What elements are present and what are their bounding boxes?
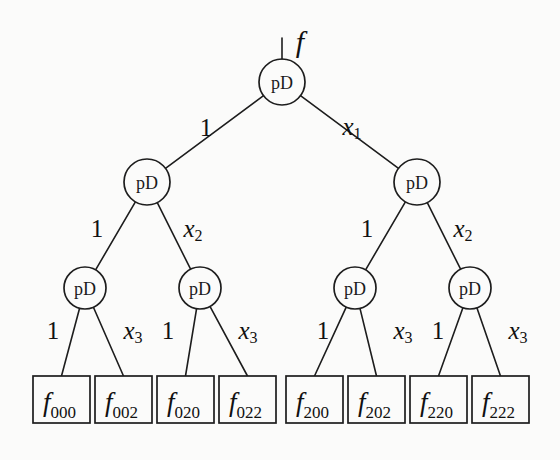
node-label: pD bbox=[406, 173, 428, 193]
edge-label-subscript: 3 bbox=[250, 329, 258, 346]
edge-label: x3 bbox=[122, 317, 142, 346]
edge-label: x2 bbox=[452, 215, 472, 244]
internal-node[interactable]: pD bbox=[449, 267, 491, 309]
root-node[interactable]: pD bbox=[259, 59, 305, 105]
edge-label: 1 bbox=[361, 215, 374, 242]
leaf-node[interactable]: f200 bbox=[286, 376, 343, 423]
decision-tree-figure: pDpDpDpDpDpDpD f000f002f020f022f200f202f… bbox=[0, 0, 560, 460]
edge-label: 1 bbox=[200, 114, 213, 141]
edge-label: 1 bbox=[162, 317, 175, 344]
edge-label: 1 bbox=[47, 317, 60, 344]
edge-label-subscript: 1 bbox=[354, 125, 362, 142]
edge-label: 1 bbox=[91, 215, 104, 242]
leaf-node[interactable]: f020 bbox=[157, 376, 214, 423]
tree-edge bbox=[186, 309, 197, 376]
leaf-label-subscript: 002 bbox=[113, 403, 139, 422]
internal-node[interactable]: pD bbox=[124, 159, 170, 205]
leaf-node[interactable]: f022 bbox=[219, 376, 276, 423]
edge-label: x3 bbox=[392, 317, 412, 346]
decision-tree-canvas: pDpDpDpDpDpDpD f000f002f020f022f200f202f… bbox=[0, 0, 560, 460]
leaf-node[interactable]: f202 bbox=[348, 376, 405, 423]
internal-node[interactable]: pD bbox=[64, 267, 106, 309]
leaf-node[interactable]: f000 bbox=[33, 376, 90, 423]
node-label: pD bbox=[136, 173, 158, 193]
edge-label: 1 bbox=[432, 317, 445, 344]
leaf-label-subscript: 022 bbox=[237, 403, 263, 422]
nodes-layer: pDpDpDpDpDpDpD bbox=[64, 59, 491, 309]
edge-label: x1 bbox=[341, 113, 361, 142]
node-label: pD bbox=[189, 279, 211, 299]
leaf-node[interactable]: f222 bbox=[472, 376, 529, 423]
leaf-node[interactable]: f220 bbox=[410, 376, 467, 423]
leaf-label-subscript: 222 bbox=[490, 403, 516, 422]
leaf-label-subscript: 000 bbox=[51, 403, 77, 422]
edge-label: x2 bbox=[182, 215, 202, 244]
node-label: pD bbox=[74, 279, 96, 299]
tree-edge bbox=[360, 308, 377, 376]
leaf-label-subscript: 020 bbox=[175, 403, 201, 422]
leaves-layer: f000f002f020f022f200f202f220f222 bbox=[33, 376, 529, 423]
leaf-label-subscript: 220 bbox=[428, 403, 454, 422]
node-label: pD bbox=[344, 279, 366, 299]
edge-label: x3 bbox=[507, 317, 527, 346]
internal-node[interactable]: pD bbox=[394, 159, 440, 205]
node-label: pD bbox=[271, 73, 293, 93]
root-function-label: f bbox=[296, 25, 308, 58]
edge-label-subscript: 2 bbox=[195, 227, 203, 244]
edge-label-subscript: 2 bbox=[465, 227, 473, 244]
tree-edge bbox=[477, 308, 501, 376]
leaf-node[interactable]: f002 bbox=[95, 376, 152, 423]
root-input-layer: f bbox=[282, 25, 308, 59]
edge-label-subscript: 3 bbox=[135, 329, 143, 346]
edge-label: 1 bbox=[317, 317, 330, 344]
tree-edge bbox=[62, 308, 80, 376]
node-label: pD bbox=[459, 279, 481, 299]
leaf-label-subscript: 202 bbox=[366, 403, 392, 422]
tree-edge bbox=[93, 307, 123, 376]
edge-label-subscript: 3 bbox=[520, 329, 528, 346]
edge-label-subscript: 3 bbox=[405, 329, 413, 346]
internal-node[interactable]: pD bbox=[334, 267, 376, 309]
internal-node[interactable]: pD bbox=[179, 267, 221, 309]
edge-label: x3 bbox=[237, 317, 257, 346]
tree-edge bbox=[165, 96, 263, 169]
leaf-label-subscript: 200 bbox=[304, 403, 330, 422]
